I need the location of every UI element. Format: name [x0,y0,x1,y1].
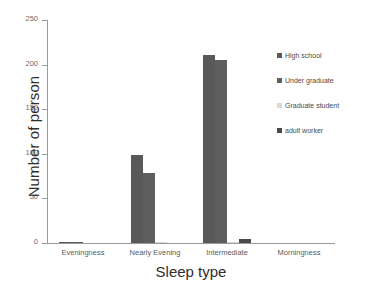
chart-legend: High schoolUnder graduateGraduate studen… [277,43,381,143]
legend-swatch-icon [277,103,282,108]
x-tick-label: Intermediate [191,248,263,257]
bar [71,242,83,243]
legend-item[interactable]: Graduate student [277,93,381,118]
x-axis-line [47,243,335,244]
y-tick: 200 [42,65,47,66]
y-tick-label: 0 [34,237,38,246]
bar [203,55,215,243]
y-tick-label: 200 [25,59,38,68]
legend-label: Under graduate [285,77,334,84]
y-axis-line [47,20,48,243]
y-tick: 0 [42,243,47,244]
chart-figure: Number of person 050100150200250 Evening… [0,0,383,295]
legend-swatch-icon [277,53,282,58]
bar [131,155,143,243]
y-tick: 50 [42,198,47,199]
scan-edge [0,290,383,295]
y-tick-label: 250 [25,14,38,23]
x-tick-label: Eveningness [47,248,119,257]
bar-group [59,20,107,243]
bar [59,242,71,243]
legend-label: Graduate student [285,102,339,109]
bar [227,242,239,243]
legend-item[interactable]: High school [277,43,381,68]
y-tick: 100 [42,154,47,155]
legend-item[interactable]: Under graduate [277,68,381,93]
legend-label: High school [285,52,322,59]
y-tick-label: 50 [30,192,38,201]
y-tick-label: 100 [25,148,38,157]
x-axis-title: Sleep type [47,263,335,280]
bar [239,239,251,243]
legend-label: adult worker [285,127,323,134]
bar-group [131,20,179,243]
legend-swatch-icon [277,78,282,83]
x-tick-label: Morningness [263,248,335,257]
bar [215,60,227,243]
bar-group [203,20,251,243]
y-tick-label: 150 [25,103,38,112]
x-tick-label: Nearly Evening [119,248,191,257]
y-tick: 150 [42,109,47,110]
bar [143,173,155,243]
y-tick: 250 [42,20,47,21]
legend-swatch-icon [277,128,282,133]
legend-item[interactable]: adult worker [277,118,381,143]
bar [155,242,167,243]
